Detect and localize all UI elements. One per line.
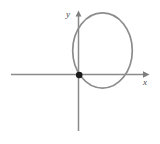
figure-canvas: y x: [0, 0, 160, 144]
y-axis-label: y: [66, 10, 70, 19]
coordinate-plane-diagram: [0, 0, 160, 144]
x-axis-label: x: [143, 78, 147, 87]
origin-point-marker: [76, 72, 83, 79]
arrow-up-icon: [76, 11, 82, 17]
